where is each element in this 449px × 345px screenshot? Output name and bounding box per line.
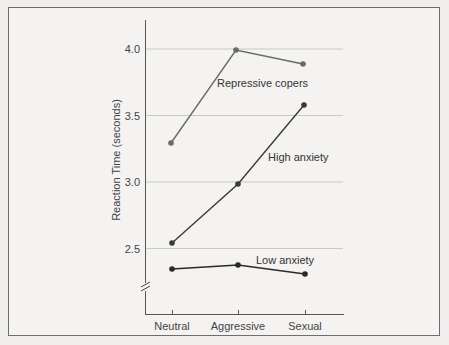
series-label-repressive-copers: Repressive copers: [217, 77, 309, 89]
x-tick-label: Sexual: [288, 320, 322, 332]
axis-break-icon: [140, 282, 151, 291]
y-tick-label: 3.5: [125, 110, 140, 122]
y-tick-label: 3.0: [125, 176, 140, 188]
y-axis-label: Reaction Time (seconds): [110, 99, 122, 221]
series-label-low-anxiety: Low anxiety: [256, 254, 315, 266]
y-tick-label: 4.0: [125, 43, 140, 55]
series-repressive-copers: [168, 47, 306, 146]
line-chart: 2.5 3.0 3.5 4.0 Reaction Time (seconds) …: [0, 0, 449, 345]
series-label-high-anxiety: High anxiety: [268, 151, 329, 163]
y-tick-label: 2.5: [125, 243, 140, 255]
x-tick-label: Aggressive: [211, 320, 265, 332]
series-high-anxiety: [169, 102, 307, 246]
x-ticks: [173, 310, 306, 314]
x-tick-label: Neutral: [154, 320, 189, 332]
